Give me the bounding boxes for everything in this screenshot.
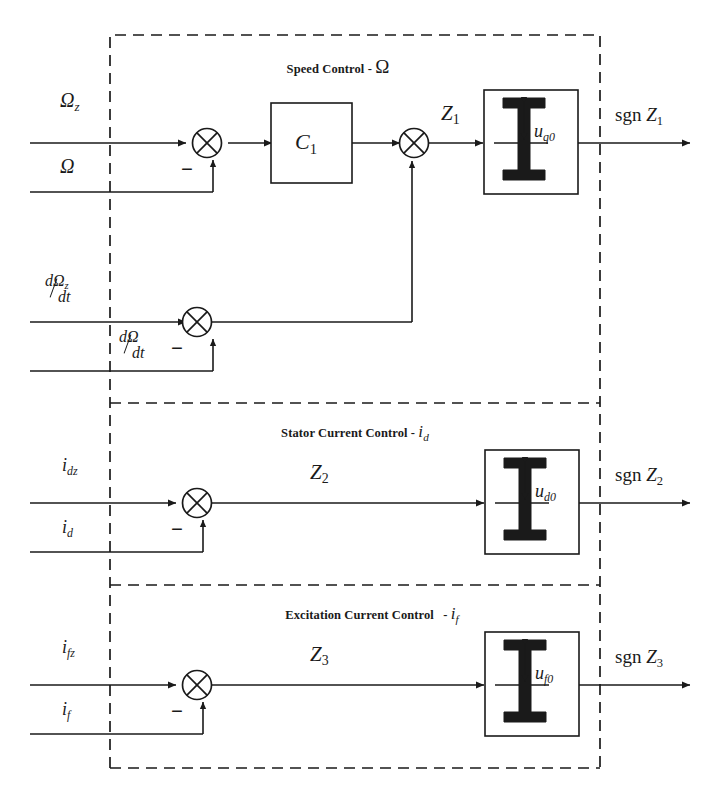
block-diagram-canvas: Speed Control - Ω Ωz Ω − C1 Z1 uq0 sgn Z… (0, 0, 717, 799)
relay-amplitude-label-uq0: uq0 (534, 122, 555, 144)
c1-base: C (295, 129, 310, 154)
signal-label-z3: Z3 (310, 644, 329, 668)
c1-sub: 1 (310, 141, 317, 157)
diagram-lines (0, 0, 717, 799)
summing-junction-sliding-surface (400, 129, 429, 158)
input-label-if: if (62, 700, 70, 722)
summing-junction-derivative-error (183, 308, 212, 337)
section-title-stator-current-control: Stator Current Control - id (281, 423, 429, 443)
summing-junction-stator-error (183, 489, 212, 518)
input-label-id: id (62, 518, 73, 540)
omega-ref-base: Ω (60, 89, 74, 111)
z2-base: Z (310, 460, 322, 484)
if-sub: f (67, 708, 70, 722)
relay-block-excitation (485, 632, 579, 736)
z3-base: Z (310, 642, 322, 666)
section-title-excitation-text: Excitation Current Control (285, 608, 434, 622)
ifz-sub: fz (67, 646, 75, 660)
sgn-z3-base: Z (646, 646, 657, 667)
minus-sign-speed-error: − (181, 159, 193, 180)
signal-label-z1: Z1 (441, 103, 460, 127)
omega-ref-sub: z (74, 99, 79, 114)
z1-sub: 1 (453, 112, 460, 127)
relay-amplitude-label-ud0: ud0 (535, 482, 556, 504)
relay-amplitude-label-uf0: uf0 (535, 664, 553, 686)
id-sub: d (67, 526, 73, 540)
ud0-sub: d0 (544, 490, 556, 504)
section-title-stator-dash: - (411, 426, 415, 440)
section-title-excitation-current-control: Excitation Current Control - if (285, 605, 458, 625)
sgn-z3-sub: 3 (657, 656, 663, 670)
section-title-excitation-dash: - (437, 608, 447, 622)
sgn-z2-sub: 2 (657, 474, 663, 488)
omega-fb-base: Ω (60, 155, 74, 177)
sgn-z2-base: Z (646, 464, 657, 485)
input-label-idz: idz (62, 456, 78, 478)
input-label-omega-ref: Ωz (60, 90, 80, 113)
z2-sub: 2 (322, 471, 329, 486)
excitation-signal-paths (30, 685, 690, 734)
idz-sub: dz (67, 464, 78, 478)
uf0-sub: f0 (544, 672, 553, 686)
section-title-speed-var: Ω (375, 56, 389, 77)
signal-label-z2: Z2 (310, 462, 329, 486)
section-title-excitation-var: if (451, 604, 459, 623)
uq0-base: u (534, 121, 543, 141)
sgn-z1-base: Z (646, 104, 657, 125)
sgn-z1-sub: 1 (657, 114, 663, 128)
domega-ref-denominator: dt (58, 289, 70, 305)
uf0-base: u (535, 663, 544, 683)
input-label-ifz: ifz (62, 638, 75, 660)
sgn-z1-prefix: sgn (615, 104, 641, 125)
z1-base: Z (441, 101, 453, 125)
section-title-stator-text: Stator Current Control (281, 426, 408, 440)
relay-block-speed (484, 90, 578, 194)
output-label-sgn-z3: sgn Z3 (615, 647, 663, 670)
minus-sign-derivative-error: − (171, 338, 183, 359)
minus-sign-stator-error: − (171, 519, 183, 540)
relay-block-stator (485, 450, 579, 554)
controller-label-c1: C1 (295, 131, 317, 156)
input-label-omega-feedback: Ω (60, 156, 74, 176)
section-title-speed-text: Speed Control (287, 62, 365, 76)
ud0-base: u (535, 481, 544, 501)
sgn-z2-prefix: sgn (615, 464, 641, 485)
output-label-sgn-z2: sgn Z2 (615, 465, 663, 488)
domega-denominator: dt (132, 345, 144, 361)
output-label-sgn-z1: sgn Z1 (615, 105, 663, 128)
z3-sub: 3 (322, 653, 329, 668)
summing-junction-excitation-error (183, 671, 212, 700)
excitation-var-sub: f (456, 613, 459, 625)
input-label-domega-ref-dt: dΩz dt (45, 282, 115, 314)
section-title-stator-var: id (418, 422, 429, 441)
section-title-speed-control: Speed Control - Ω (287, 57, 390, 76)
speed-signal-paths (30, 143, 690, 192)
section-title-speed-dash: - (368, 62, 372, 76)
summing-junction-speed-error (193, 129, 222, 158)
uq0-sub: q0 (543, 130, 555, 144)
stator-var-sub: d (423, 431, 429, 443)
sgn-z3-prefix: sgn (615, 646, 641, 667)
stator-signal-paths (30, 503, 690, 552)
minus-sign-excitation-error: − (171, 701, 183, 722)
